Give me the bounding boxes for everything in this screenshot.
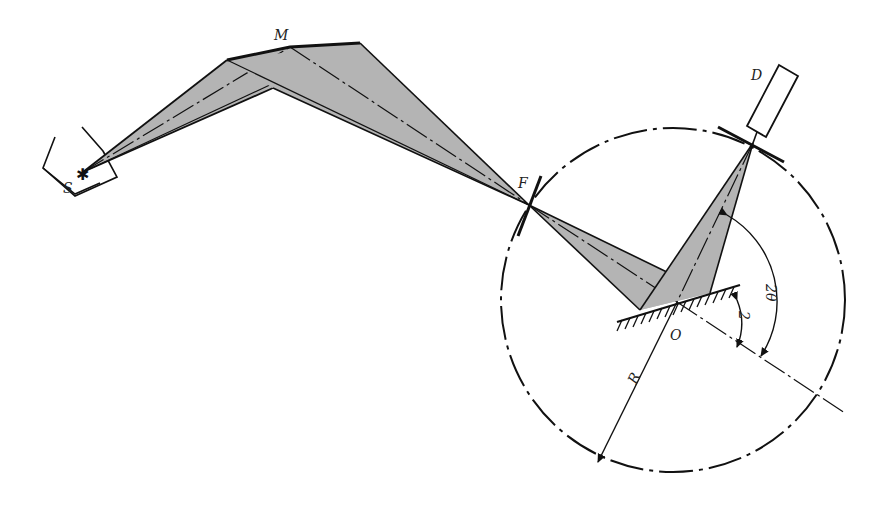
beam-crystal-to-detector xyxy=(640,143,753,310)
detector-slit xyxy=(718,127,784,162)
label-m: M xyxy=(273,27,289,43)
label-theta: 2 xyxy=(736,310,752,320)
incident-axis-extension xyxy=(677,302,845,413)
rowland-circle-diagram: S M F D O R 2 2θ ✱ xyxy=(0,0,885,505)
label-two-theta: 2θ xyxy=(763,283,779,302)
label-o: O xyxy=(670,327,682,343)
theta-arc xyxy=(737,300,742,347)
source-star-icon: ✱ xyxy=(76,165,89,184)
label-d: D xyxy=(750,67,762,83)
label-s: S xyxy=(63,180,73,196)
detector-stem xyxy=(753,132,757,143)
label-r: R xyxy=(624,369,644,387)
label-f: F xyxy=(517,175,529,191)
beam-mirror-to-focus xyxy=(227,43,529,205)
